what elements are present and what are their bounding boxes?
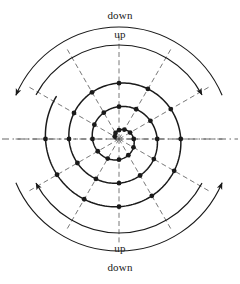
spiral-node (90, 137, 95, 142)
spiral-curve (45, 83, 180, 207)
radial-spoke (119, 48, 172, 139)
spiral-node (178, 137, 183, 142)
radial-spoke (67, 139, 120, 230)
radial-spoke (119, 87, 210, 140)
spiral-node-group (43, 81, 183, 209)
spiral-node (117, 128, 122, 133)
spiral-node (72, 111, 77, 116)
arc-label-down-bottom: down (0, 261, 240, 273)
spiral-node (117, 204, 122, 209)
arc-label-down-top: down (0, 9, 240, 21)
spiral-curve-group (45, 83, 180, 207)
spiral-node (131, 137, 136, 142)
spiral-node (168, 107, 173, 112)
spiral-node (126, 153, 131, 158)
spiral-node (82, 197, 87, 202)
spiral-node (117, 104, 122, 109)
spiral-node (101, 110, 106, 115)
spiral-node (138, 173, 143, 178)
spiral-node (172, 168, 177, 173)
radial-spoke (119, 139, 172, 230)
spiral-node (151, 157, 156, 162)
spiral-node (94, 177, 99, 182)
spiral-node (92, 122, 97, 127)
spiral-node (43, 137, 48, 142)
radial-spoke (28, 139, 119, 192)
arc-label-up-bottom: up (0, 242, 240, 254)
arc-label-up-top: up (0, 28, 240, 40)
spiral-node (117, 81, 122, 86)
spiral-node (55, 172, 60, 177)
spiral-node (146, 87, 151, 92)
spiral-node (90, 90, 95, 95)
spiral-figure: down up up down (0, 0, 240, 284)
spiral-node (117, 157, 122, 162)
spiral-node (148, 118, 153, 123)
spiral-node (149, 193, 154, 198)
spiral-node (117, 181, 122, 186)
spiral-node (122, 127, 127, 132)
spiral-node (155, 137, 160, 142)
spiral-node (134, 107, 139, 112)
spiral-node (131, 145, 136, 150)
spiral-node (75, 161, 80, 166)
spiral-node (67, 137, 72, 142)
spiral-node (95, 149, 100, 154)
spiral-node (128, 130, 133, 135)
spiral-node (105, 156, 110, 161)
